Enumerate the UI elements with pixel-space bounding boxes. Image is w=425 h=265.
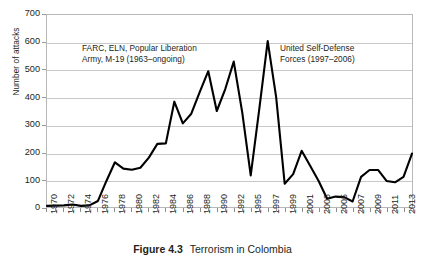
x-tick-mark [242, 208, 243, 212]
x-tick-mark [140, 208, 141, 212]
x-tick-mark [123, 208, 124, 212]
x-tick-mark [97, 208, 98, 212]
x-tick-mark [191, 208, 192, 212]
x-tick-mark [285, 208, 286, 212]
x-tick-mark [165, 208, 166, 212]
y-tick-label: 0 [35, 203, 40, 212]
plot-area: FARC, ELN, Popular Liberation Army, M-19… [46, 14, 413, 208]
figure-terrorism-in-colombia: Number of attacks 0100200300400500600700… [0, 0, 425, 265]
figure-caption-text: Terrorism in Colombia [190, 243, 292, 255]
x-tick-mark [157, 208, 158, 212]
x-tick-mark [396, 208, 397, 212]
x-tick-mark [208, 208, 209, 212]
y-axis-tick-labels: 0100200300400500600700 [0, 8, 46, 210]
x-tick-mark [174, 208, 175, 212]
x-tick-mark [234, 208, 235, 212]
x-tick-mark [353, 208, 354, 212]
x-tick-mark [268, 208, 269, 212]
x-tick-mark [63, 208, 64, 212]
x-tick-mark [336, 208, 337, 212]
x-tick-mark [106, 208, 107, 212]
x-tick-mark [319, 208, 320, 212]
x-tick-mark [217, 208, 218, 212]
y-tick-label: 500 [25, 65, 40, 74]
y-tick-label: 700 [25, 9, 40, 18]
x-tick-mark [148, 208, 149, 212]
figure-caption-label: Figure 4.3 [133, 243, 183, 255]
x-tick-mark [345, 208, 346, 212]
figure-caption: Figure 4.3Terrorism in Colombia [0, 243, 425, 255]
x-tick-mark [55, 208, 56, 212]
x-tick-mark [251, 208, 252, 212]
x-tick-mark [404, 208, 405, 212]
x-tick-mark [183, 208, 184, 212]
x-tick-mark [200, 208, 201, 212]
x-tick-mark [311, 208, 312, 212]
x-tick-mark [387, 208, 388, 212]
y-tick-label: 100 [25, 176, 40, 185]
x-tick-mark [114, 208, 115, 212]
x-tick-mark [302, 208, 303, 212]
x-tick-mark [328, 208, 329, 212]
y-tick-label: 200 [25, 148, 40, 157]
y-tick-label: 600 [25, 37, 40, 46]
annotation-united-self-defense-forces: United Self-Defense Forces (1997–2006) [280, 43, 355, 65]
x-tick-mark [131, 208, 132, 212]
x-tick-mark [379, 208, 380, 212]
x-tick-mark [259, 208, 260, 212]
y-tick-label: 400 [25, 93, 40, 102]
x-tick-mark [89, 208, 90, 212]
x-tick-mark [413, 208, 414, 212]
x-tick-mark [46, 208, 47, 212]
y-tick-label: 300 [25, 120, 40, 129]
x-tick-mark [80, 208, 81, 212]
x-tick-mark [276, 208, 277, 212]
x-tick-mark [362, 208, 363, 212]
x-tick-mark [225, 208, 226, 212]
annotation-farc-eln: FARC, ELN, Popular Liberation Army, M-19… [82, 43, 197, 65]
x-tick-mark [72, 208, 73, 212]
x-tick-mark [370, 208, 371, 212]
x-tick-mark [294, 208, 295, 212]
